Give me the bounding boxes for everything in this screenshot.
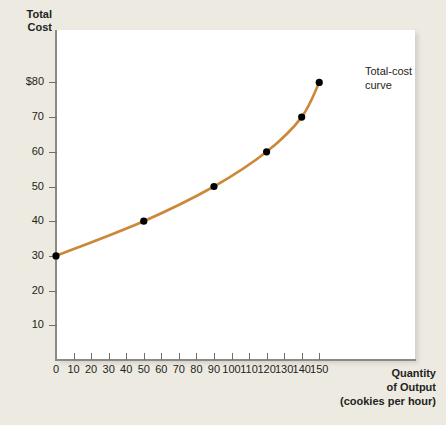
data-point-marker bbox=[298, 114, 305, 121]
total-cost-curve-figure: 10203040506070$80 0102030405060708090100… bbox=[0, 0, 446, 425]
total-cost-curve-path bbox=[56, 82, 319, 256]
data-point-marker bbox=[210, 183, 217, 190]
data-point-marker bbox=[316, 79, 323, 86]
data-point-marker bbox=[263, 148, 270, 155]
data-point-marker bbox=[52, 252, 59, 259]
total-cost-curve-markers bbox=[52, 79, 322, 260]
curve-annotation: Total-cost curve bbox=[365, 64, 412, 92]
curve-annotation-line-1: Total-cost bbox=[365, 64, 412, 78]
curve-annotation-line-2: curve bbox=[365, 78, 412, 92]
data-point-marker bbox=[140, 218, 147, 225]
